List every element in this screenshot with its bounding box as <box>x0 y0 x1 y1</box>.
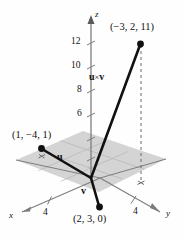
z-axis-arrow <box>88 15 95 24</box>
vector-label-v-part: v <box>99 71 104 82</box>
y-axis-arrow <box>150 203 160 212</box>
x-axis-arrow <box>22 207 31 213</box>
vector-label-v: v <box>81 186 86 196</box>
cross-product-figure: z x y 12 10 8 6 4 4 (−3, 2, 11) (1, −4, … <box>0 0 183 238</box>
point-label-u-cross-v: (−3, 2, 11) <box>110 22 154 33</box>
dropline-foot-marker <box>138 181 145 185</box>
z-tick-label-10: 10 <box>71 61 81 71</box>
z-tick-label-12: 12 <box>71 37 81 47</box>
vector-label-u-cross-v: u×v <box>89 72 104 82</box>
z-tick-label-8: 8 <box>77 85 82 95</box>
y-tick-label-4: 4 <box>133 207 138 217</box>
point-label-v: (2, 3, 0) <box>73 214 106 225</box>
point-v <box>96 204 103 211</box>
point-label-u: (1, −4, 1) <box>12 130 51 141</box>
x-axis <box>22 178 100 212</box>
figure-canvas <box>0 0 183 238</box>
z-axis-label: z <box>95 10 99 19</box>
vector-label-u: u <box>57 152 63 162</box>
z-tick-label-6: 6 <box>77 109 82 119</box>
y-axis-label: y <box>166 209 170 218</box>
point-u-cross-v <box>137 41 144 48</box>
point-u <box>38 145 45 152</box>
x-tick-label-4: 4 <box>43 208 48 218</box>
x-axis-label: x <box>9 211 13 220</box>
